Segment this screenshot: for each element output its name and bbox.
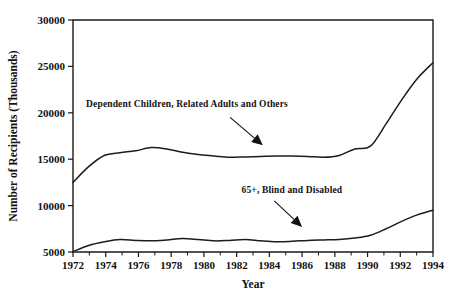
- y-axis-title: Number of Recipients (Thousands): [7, 50, 20, 222]
- annotation-label-1: 65+, Blind and Disabled: [242, 185, 343, 195]
- x-tick-label-1978: 1978: [160, 259, 183, 271]
- y-tick-label-20000: 20000: [38, 107, 66, 119]
- y-tick-label-15000: 15000: [38, 153, 66, 165]
- annotation-arrow-head-0: [251, 134, 263, 145]
- y-tick-label-5000: 5000: [43, 246, 66, 258]
- y-tick-label-30000: 30000: [38, 14, 66, 26]
- x-tick-label-1986: 1986: [291, 259, 314, 271]
- x-tick-label-1982: 1982: [226, 259, 249, 271]
- x-tick-label-1990: 1990: [357, 259, 380, 271]
- x-tick-label-1984: 1984: [258, 259, 281, 271]
- annotation-arrow-line-1: [274, 201, 294, 219]
- y-tick-label-10000: 10000: [38, 200, 66, 212]
- x-tick-label-1976: 1976: [127, 259, 150, 271]
- annotation-label-0: Dependent Children, Related Adults and O…: [86, 99, 288, 109]
- x-tick-label-1994: 1994: [422, 259, 445, 271]
- x-tick-label-1972: 1972: [62, 259, 85, 271]
- annotation-arrow-line-0: [230, 117, 254, 138]
- x-axis-title: Year: [242, 278, 265, 290]
- x-tick-label-1988: 1988: [324, 259, 347, 271]
- line-chart: 5000100001500020000250003000019721974197…: [0, 0, 460, 296]
- chart-figure: 5000100001500020000250003000019721974197…: [0, 0, 460, 296]
- x-tick-label-1992: 1992: [389, 259, 412, 271]
- y-tick-label-25000: 25000: [38, 60, 66, 72]
- x-tick-label-1974: 1974: [95, 259, 118, 271]
- series-line-0: [73, 63, 433, 183]
- x-tick-label-1980: 1980: [193, 259, 216, 271]
- series-line-1: [73, 210, 433, 251]
